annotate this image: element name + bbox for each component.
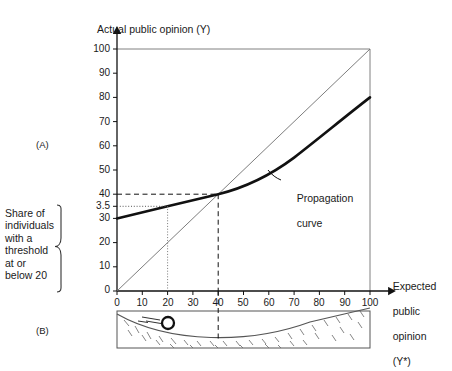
x-tick-label: 50	[233, 297, 253, 309]
ball-motion-lines	[138, 317, 161, 324]
x-axis-title-line3: opinion	[393, 330, 427, 342]
x-axis-title-line2: public	[393, 305, 420, 317]
ball-marker	[162, 317, 174, 329]
y-tick-label: 90	[86, 67, 110, 79]
x-axis-title-line4: (Y*)	[393, 355, 411, 367]
x-tick-label: 70	[284, 297, 304, 309]
series-45-degree-line	[117, 49, 370, 291]
x-axis-title: Expected public opinion (Y*)	[381, 268, 436, 371]
x-tick-label: 20	[158, 297, 178, 309]
x-tick-label: 0	[107, 297, 127, 309]
y-tick-label: 20	[86, 236, 110, 248]
y-tick-label: 70	[86, 116, 110, 128]
brace-label-threshold-share: Share of individuals with a threshold at…	[5, 207, 57, 281]
y-tick-label: 40	[86, 188, 110, 200]
y-tick-label: 50	[86, 164, 110, 176]
y-tick-label: 10	[86, 260, 110, 272]
annotation-line2: curve	[297, 217, 323, 229]
x-tick-label: 90	[335, 297, 355, 309]
x-tick-label: 60	[259, 297, 279, 309]
y-tick-label: 60	[86, 140, 110, 152]
x-tick-label: 100	[357, 297, 383, 309]
x-tick-label: 80	[309, 297, 329, 309]
x-tick-label: 40	[208, 297, 228, 309]
panel-b-hatching	[124, 311, 364, 349]
x-axis-title-line1: Expected	[393, 280, 437, 292]
x-tick-label: 30	[183, 297, 203, 309]
panel-b-label: (B)	[36, 325, 49, 336]
annotation-line1: Propagation	[297, 192, 354, 204]
annotation-propagation-curve: Propagation curve	[285, 180, 353, 242]
y-tick-label: 30	[86, 212, 110, 224]
x-tick-label: 10	[132, 297, 152, 309]
y-tick-label-special: 3.5	[80, 200, 110, 212]
y-tick-label: 80	[86, 91, 110, 103]
panel-a-label: (A)	[36, 139, 49, 150]
y-tick-label: 100	[82, 43, 110, 55]
y-tick-label: 0	[86, 284, 110, 296]
